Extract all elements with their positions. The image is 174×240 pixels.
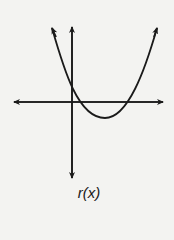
function-label: r(x): [0, 184, 174, 201]
parabola-curve: [52, 28, 157, 118]
